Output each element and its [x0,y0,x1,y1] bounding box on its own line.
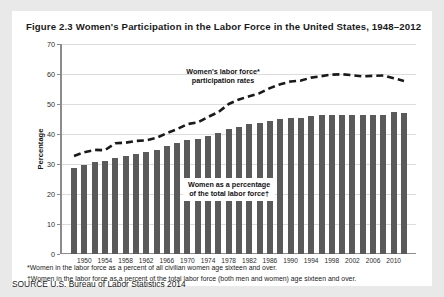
annotation-participation-line1: Women's labor force* [164,67,282,76]
annotation-share-line1: Women as a percentage [188,180,270,189]
y-tick-label: 0 [51,250,55,259]
y-tick-label: 10 [47,220,55,229]
y-axis-label: Percentage [36,129,45,170]
y-tick-label: 70 [47,40,55,49]
figure-panel: Figure 2.3 Women's Participation in the … [12,11,432,286]
y-tick-label: 40 [47,130,55,139]
annotation-participation-rates: Women's labor force* participation rates [164,67,282,85]
annotation-share-of-labor-force: Women as a percentage of the total labor… [183,178,275,201]
footnote-star: *Women in the labor force as a percent o… [27,263,427,274]
annotation-share-line2: of the total labor force† [188,189,270,198]
y-tick-label: 30 [47,160,55,169]
figure-title: Figure 2.3 Women's Participation in the … [26,21,421,32]
annotation-participation-line2: participation rates [164,76,282,85]
y-tick-label: 50 [47,100,55,109]
y-tick-label: 60 [47,70,55,79]
y-tick-label: 20 [47,190,55,199]
source-line: SOURCE U.S. Bureau of Labor Statistics 2… [12,279,186,289]
